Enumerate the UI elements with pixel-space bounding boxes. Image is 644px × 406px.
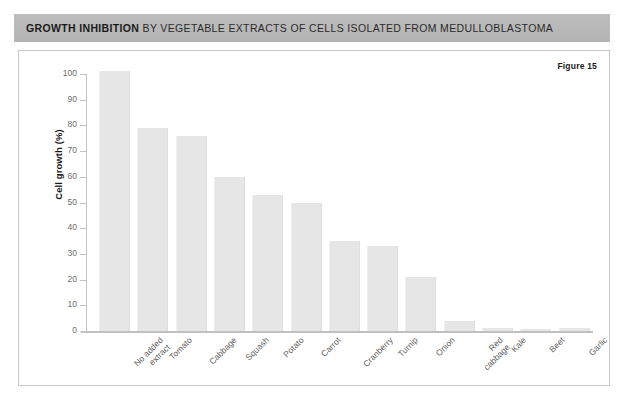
y-axis-tick-label-text: 70 [51,146,77,155]
y-axis-tick-mark [80,177,86,178]
bar [291,203,322,332]
y-axis-tick-label: 10 [47,300,77,310]
figure-title: GROWTH INHIBITION BY VEGETABLE EXTRACTS … [26,22,553,34]
y-axis-tick-mark [80,203,86,204]
figure-number-label: Figure 15 [557,61,597,71]
x-axis-category-label: Kale [508,335,527,354]
y-axis-tick-label-text: 20 [51,275,77,284]
x-axis-category-label: Potato [281,335,305,359]
y-axis-tick-label-text: 60 [51,172,77,181]
y-axis-tick-mark [80,280,86,281]
y-axis-tick-label: 70 [47,146,77,156]
bar [329,241,360,331]
figure-container: GROWTH INHIBITION BY VEGETABLE EXTRACTS … [0,0,644,406]
bar [482,328,513,331]
figure-title-strong: GROWTH INHIBITION [26,22,139,34]
figure-title-rest: BY VEGETABLE EXTRACTS OF CELLS ISOLATED … [139,22,553,34]
y-axis-tick-mark [80,151,86,152]
bar [99,71,130,331]
bar [214,177,245,331]
bar [520,329,551,331]
y-axis-tick-label-text: 0 [51,326,77,335]
y-axis-tick-mark [80,254,86,255]
x-axis-category-label: Squash [244,335,271,362]
y-axis-tick-label: 20 [47,275,77,285]
bar [367,246,398,331]
y-axis-tick-label: 40 [47,223,77,233]
chart-panel: Figure 15 Cell growth (%) 01020304050607… [18,50,610,386]
plot-area [87,74,591,331]
y-axis-tick-label: 60 [47,172,77,182]
y-axis-tick-label-text: 80 [51,120,77,129]
x-axis-category-label: Garlic [587,335,610,358]
y-axis-tick-label: 80 [47,120,77,130]
bar [252,195,283,331]
y-axis-tick-label: 0 [47,326,77,336]
bar [405,277,436,331]
bar [176,136,207,331]
y-axis-tick-mark [80,100,86,101]
y-axis-tick-mark [80,228,86,229]
x-axis-line [81,331,593,333]
y-axis-tick-label: 30 [47,249,77,259]
y-axis-tick-mark [80,305,86,306]
x-axis-category-label: Beet [547,335,566,354]
y-axis-tick-label: 50 [47,198,77,208]
y-axis-tick-label-text: 40 [51,223,77,232]
y-axis-tick-label-text: 30 [51,249,77,258]
y-axis-tick-label-text: 90 [51,95,77,104]
y-axis-tick-label-text: 100 [51,69,77,78]
x-axis-category-label: Cabbage [207,335,238,366]
x-axis-category-label: No added extract [131,335,171,375]
x-axis-category-label: Cranberry [361,335,395,369]
y-axis-tick-mark [80,74,86,75]
figure-header-bar: GROWTH INHIBITION BY VEGETABLE EXTRACTS … [14,14,610,42]
bar [137,128,168,331]
x-axis-category-label: Carrot [319,335,343,359]
x-axis-category-label: Onion [434,335,457,358]
y-axis-tick-mark [80,331,86,332]
x-axis-category-label: Turnip [396,335,420,359]
bar [559,328,590,331]
y-axis-tick-label-text: 10 [51,300,77,309]
bar [444,321,475,331]
y-axis-tick-mark [80,125,86,126]
y-axis-tick-label: 90 [47,95,77,105]
y-axis-tick-label-text: 50 [51,198,77,207]
x-axis-category-label: Red cabbage [475,335,512,372]
y-axis-tick-label: 100 [47,69,77,79]
